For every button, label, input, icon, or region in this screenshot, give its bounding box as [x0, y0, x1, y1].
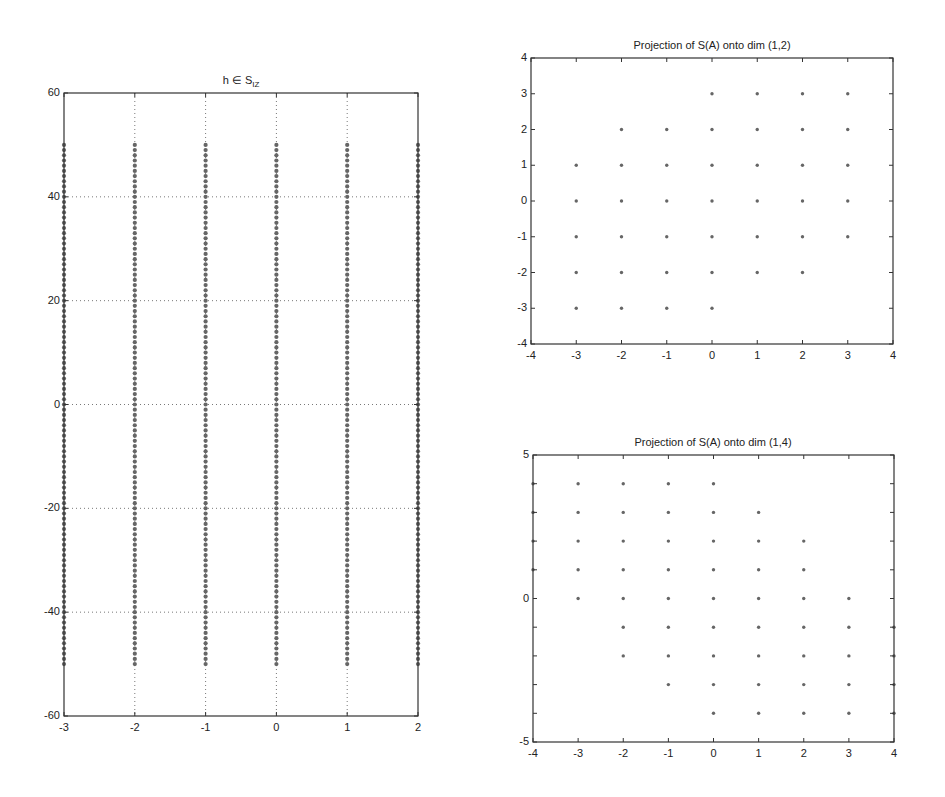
- x-tick-label: 3: [834, 747, 864, 759]
- x-tick-label: 1: [744, 747, 774, 759]
- x-tick-label: 2: [789, 747, 819, 759]
- x-tick-label: -2: [608, 747, 638, 759]
- x-tick-label: 0: [699, 747, 729, 759]
- x-tick-label: -3: [563, 747, 593, 759]
- bottom-right-chart: Projection of S(A) onto dim (1,4) -4-3-2…: [0, 0, 945, 797]
- y-tick-label: 0: [491, 592, 529, 604]
- x-tick-label: 4: [879, 747, 909, 759]
- y-tick-label: -5: [491, 735, 529, 747]
- x-tick-label: -1: [653, 747, 683, 759]
- x-tick-label: -4: [518, 747, 548, 759]
- bottom-right-plot-area: [0, 0, 945, 797]
- y-tick-label: 5: [491, 448, 529, 460]
